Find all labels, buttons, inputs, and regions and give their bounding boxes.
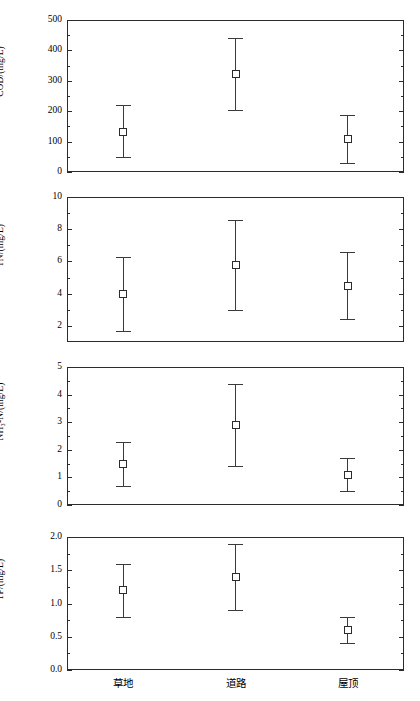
y-tick-label: 400: [33, 45, 62, 55]
y-tick-minor: [67, 245, 70, 246]
y-tick-major-right: [399, 111, 404, 112]
y-tick-label: 8: [33, 224, 62, 234]
y-tick-label: 0: [33, 167, 62, 177]
y-tick-label: 10: [33, 192, 62, 202]
y-tick-minor: [67, 126, 70, 127]
y-tick-minor-right: [401, 491, 404, 492]
y-tick-major-right: [399, 477, 404, 478]
y-tick-major-right: [399, 537, 404, 538]
error-bar-cap-upper: [228, 544, 243, 545]
y-tick-major: [67, 395, 72, 396]
y-tick-minor: [67, 381, 70, 382]
y-tick-minor-right: [401, 620, 404, 621]
y-tick-minor-right: [401, 587, 404, 588]
error-bar: [113, 442, 133, 486]
y-axis-label-nh3n: NH₃-N/(mg/L): [0, 367, 5, 502]
y-tick-major: [67, 172, 72, 173]
y-tick-major-right: [399, 450, 404, 451]
y-axis-label-tp: TP/(mg/L): [0, 534, 5, 669]
y-tick-label: 3: [33, 417, 62, 427]
y-tick-major: [67, 261, 72, 262]
y-tick-label: 200: [33, 106, 62, 116]
error-bar-cap-lower: [340, 491, 355, 492]
y-tick-major: [67, 604, 72, 605]
error-bar-cap-upper: [340, 617, 355, 618]
y-tick-minor-right: [401, 96, 404, 97]
y-tick-minor-right: [401, 213, 404, 214]
error-bar-cap-upper: [116, 564, 131, 565]
y-tick-minor: [67, 464, 70, 465]
y-tick-label: 5: [33, 362, 62, 372]
data-point-marker: [344, 471, 352, 479]
y-tick-major: [67, 537, 72, 538]
error-bar: [338, 617, 358, 644]
error-bar-cap-lower: [340, 643, 355, 644]
y-tick-major-right: [399, 505, 404, 506]
y-tick-major-right: [399, 670, 404, 671]
data-point-marker: [232, 421, 240, 429]
y-tick-major: [67, 450, 72, 451]
y-tick-minor-right: [401, 35, 404, 36]
error-bar-cap-upper: [340, 252, 355, 253]
error-bar: [226, 384, 246, 467]
y-tick-minor: [67, 213, 70, 214]
y-tick-major: [67, 422, 72, 423]
y-tick-major-right: [399, 570, 404, 571]
y-tick-minor-right: [401, 408, 404, 409]
data-point-marker: [344, 626, 352, 634]
y-tick-minor: [67, 436, 70, 437]
error-bar-cap-upper: [116, 105, 131, 106]
error-bar: [113, 564, 133, 617]
error-bar-cap-upper: [116, 257, 131, 258]
error-bar: [338, 115, 358, 163]
error-bar-cap-lower: [116, 486, 131, 487]
error-bar-cap-lower: [228, 466, 243, 467]
y-tick-minor: [67, 620, 70, 621]
y-tick-major: [67, 294, 72, 295]
y-tick-major-right: [399, 367, 404, 368]
data-point-marker: [119, 290, 127, 298]
error-bar-cap-lower: [340, 319, 355, 320]
y-tick-major-right: [399, 604, 404, 605]
error-bar-cap-lower: [116, 157, 131, 158]
y-tick-major: [67, 326, 72, 327]
y-tick-minor-right: [401, 66, 404, 67]
y-tick-major: [67, 477, 72, 478]
data-point-marker: [232, 573, 240, 581]
error-bar-cap-upper: [228, 384, 243, 385]
y-tick-major: [67, 50, 72, 51]
y-tick-major-right: [399, 326, 404, 327]
error-bar-cap-lower: [228, 110, 243, 111]
y-tick-major-right: [399, 261, 404, 262]
error-bar-cap-upper: [340, 115, 355, 116]
y-tick-label: 2: [33, 445, 62, 455]
error-bar-cap-upper: [228, 38, 243, 39]
error-bar: [338, 252, 358, 320]
data-point-marker: [232, 70, 240, 78]
y-tick-minor: [67, 653, 70, 654]
y-tick-label: 1: [33, 472, 62, 482]
y-tick-minor-right: [401, 554, 404, 555]
y-tick-label: 500: [33, 15, 62, 25]
y-tick-label: 0.5: [33, 632, 62, 642]
error-bar: [113, 257, 133, 331]
y-tick-minor-right: [401, 157, 404, 158]
error-bar-cap-lower: [116, 617, 131, 618]
y-tick-minor: [67, 35, 70, 36]
y-tick-minor: [67, 96, 70, 97]
error-bar-cap-lower: [228, 310, 243, 311]
y-tick-major-right: [399, 422, 404, 423]
y-tick-minor-right: [401, 653, 404, 654]
error-bar-cap-upper: [228, 220, 243, 221]
y-tick-minor: [67, 310, 70, 311]
y-tick-minor: [67, 491, 70, 492]
y-tick-major: [67, 570, 72, 571]
y-axis-label-cod: COD/(mg/L): [0, 27, 5, 162]
data-point-marker: [119, 128, 127, 136]
error-bar: [226, 220, 246, 310]
error-bar-cap-lower: [340, 163, 355, 164]
y-tick-major-right: [399, 172, 404, 173]
y-tick-major: [67, 505, 72, 506]
y-tick-minor: [67, 554, 70, 555]
data-point-marker: [344, 282, 352, 290]
